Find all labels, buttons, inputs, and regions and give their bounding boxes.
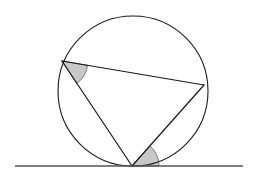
geometry-diagram-canvas	[0, 0, 257, 179]
diagram-background	[0, 0, 257, 179]
geometry-figure	[0, 0, 257, 179]
